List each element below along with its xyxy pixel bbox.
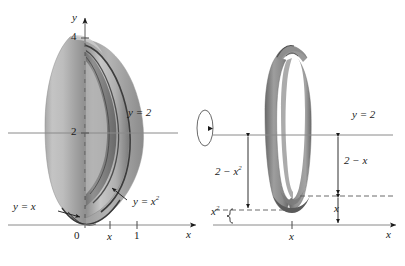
left-xtick-label-x: x <box>107 231 112 242</box>
dim-label-x: x <box>334 203 339 214</box>
label-y-equals-x-squared-exp: 2 <box>156 194 159 201</box>
right-x-axis-label: x <box>386 229 391 240</box>
dim-label-x-squared: x2 <box>211 206 219 217</box>
left-xtick-label-0: 0 <box>74 230 80 241</box>
rotation-arrow <box>197 110 213 146</box>
dim-label-outer-exp: 2 <box>238 164 241 171</box>
left-y-equals-2-label: y = 2 <box>128 107 151 118</box>
right-y-equals-2-label: y = 2 <box>352 109 375 120</box>
right-xtick-label-x: x <box>289 231 294 242</box>
dim-label-outer-base: 2 − x <box>215 165 238 177</box>
dim-label-x-squared-exp: 2 <box>216 204 219 211</box>
left-panel-graphics <box>0 0 405 266</box>
brace-x-squared <box>227 209 233 223</box>
label-y-equals-x-squared: y = x2 <box>133 196 159 207</box>
left-x-axis-label: x <box>186 229 191 240</box>
dim-label-2-minus-x: 2 − x <box>344 155 367 166</box>
left-y-axis-label: y <box>72 12 77 23</box>
left-xtick-label-1: 1 <box>134 230 140 241</box>
left-ytick-label-2: 2 <box>71 126 77 137</box>
label-y-equals-x: y = x <box>13 201 36 212</box>
dim-label-2-minus-x-squared: 2 − x2 <box>215 166 242 177</box>
left-ytick-label-4: 4 <box>71 31 77 42</box>
calculus-figure: y 4 2 0 x 1 x y = 2 y = x y = x2 y = 2 2… <box>0 0 405 266</box>
washer-ring <box>265 45 311 213</box>
label-y-equals-x-squared-base: y = x <box>133 195 156 207</box>
